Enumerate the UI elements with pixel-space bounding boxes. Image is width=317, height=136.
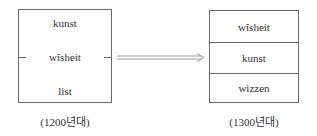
tick-right [104, 57, 111, 58]
word-wizzen: wizzen [238, 82, 269, 94]
cell-wizzen: wizzen [210, 73, 298, 102]
double-arrow-right-icon [117, 53, 207, 63]
word-wisheit: wîsheit [238, 21, 270, 33]
cell-kunst: kunst [210, 42, 298, 73]
caption-1300s: (1300년대) [204, 113, 304, 129]
word-kunst: kunst [242, 52, 266, 64]
word-kunst: kunst [19, 16, 111, 30]
tick-left [19, 57, 26, 58]
field-1200s: kunst wîsheit list [18, 9, 112, 103]
caption-1200s: (1200년대) [15, 113, 115, 129]
word-wisheit: wîsheit [19, 50, 111, 64]
cell-wisheit: wîsheit [210, 11, 298, 42]
field-1300s: wîsheit kunst wizzen [209, 10, 299, 103]
word-list: list [19, 84, 111, 98]
